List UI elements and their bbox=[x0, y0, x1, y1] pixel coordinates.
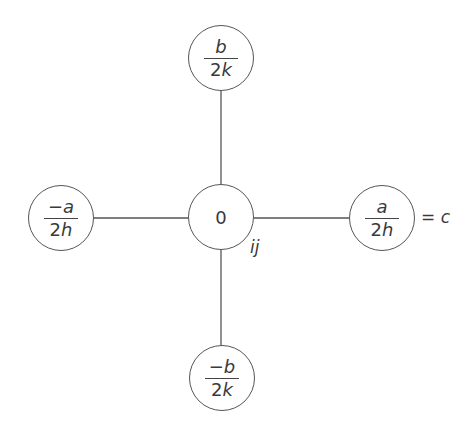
sign: − bbox=[48, 196, 63, 217]
denominator-var: k bbox=[223, 379, 233, 400]
sign: − bbox=[209, 356, 224, 377]
numerator: b bbox=[215, 36, 226, 57]
node-bottom: −b 2k bbox=[189, 345, 255, 411]
denominator-coef: 2 bbox=[211, 379, 222, 400]
node-top: b 2k bbox=[188, 25, 254, 91]
denominator-coef: 2 bbox=[50, 219, 61, 240]
annotation-var: c bbox=[441, 207, 450, 227]
denominator-coef: 2 bbox=[210, 59, 221, 80]
fraction-left: −a 2h bbox=[44, 197, 78, 240]
index-label-ij: ij bbox=[250, 237, 259, 257]
fraction-top: b 2k bbox=[204, 37, 238, 80]
denominator-coef: 2 bbox=[371, 219, 382, 240]
center-value: 0 bbox=[215, 207, 226, 228]
numerator: a bbox=[376, 196, 387, 217]
fraction-bottom: −b 2k bbox=[205, 357, 240, 400]
right-annotation: = c bbox=[421, 207, 450, 227]
node-left: −a 2h bbox=[28, 185, 94, 251]
denominator-var: h bbox=[61, 219, 72, 240]
equals-sign: = bbox=[421, 207, 441, 227]
node-right: a 2h bbox=[349, 185, 415, 251]
fraction-right: a 2h bbox=[365, 197, 399, 240]
node-center: 0 bbox=[188, 184, 254, 250]
numerator: a bbox=[63, 196, 74, 217]
numerator: b bbox=[224, 356, 235, 377]
denominator-var: h bbox=[382, 219, 393, 240]
denominator-var: k bbox=[222, 59, 232, 80]
